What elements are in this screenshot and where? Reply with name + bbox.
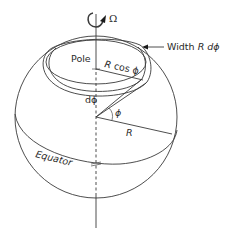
phi-label: ϕ: [115, 107, 121, 118]
r-cos-phi-label: R cos ϕ: [104, 58, 140, 76]
omega-label: Ω: [109, 13, 117, 24]
phi-angle-arc: [109, 108, 113, 120]
width-arrow: [142, 45, 164, 50]
radius-label: R: [126, 127, 133, 138]
equator-label: Equator: [35, 148, 75, 168]
sphere-diagram: Ω Width R dϕ Pole R cos ϕ dϕ ϕ R Equator: [0, 0, 229, 238]
dphi-label: dϕ: [85, 94, 97, 105]
radius-line: [96, 117, 172, 134]
pole-label: Pole: [71, 53, 91, 64]
rotation-arrow-icon: [88, 13, 106, 27]
width-label: Width R dϕ: [167, 41, 220, 52]
